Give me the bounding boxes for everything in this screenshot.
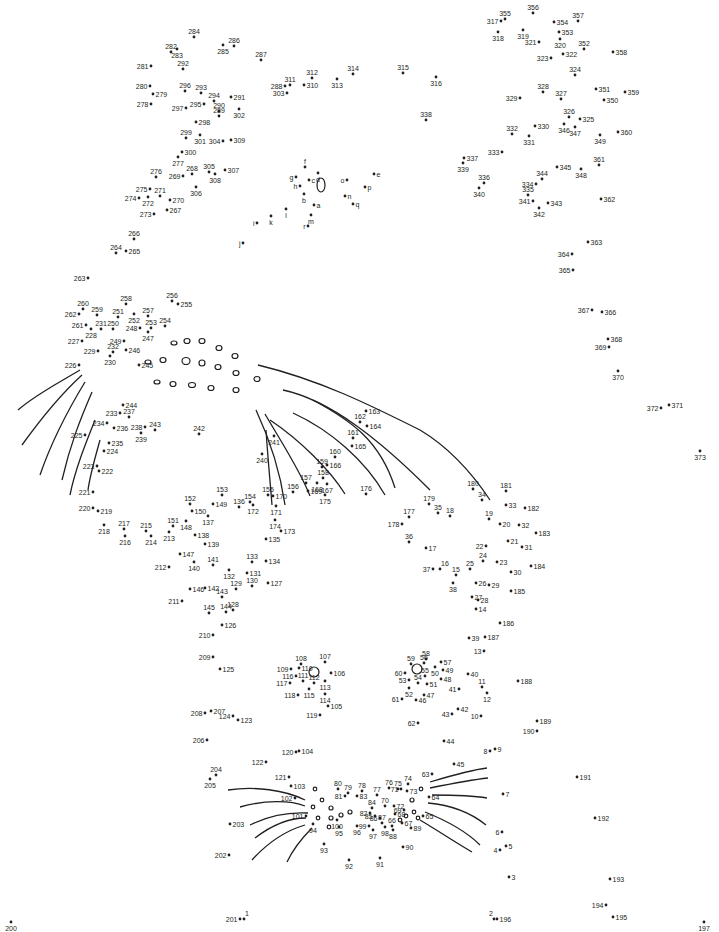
dot-marker [359, 421, 362, 424]
dot-label: 359 [628, 89, 640, 96]
dot-249: 249 [110, 338, 126, 345]
dot-marker [517, 680, 520, 683]
dot-marker [295, 675, 298, 678]
dot-marker [365, 493, 368, 496]
dot-label: 38 [449, 586, 457, 593]
dot-marker [251, 585, 254, 588]
dot-marker [308, 688, 311, 691]
dot-label: 251 [112, 308, 124, 315]
dot-label: 295 [190, 101, 202, 108]
dot-marker [238, 108, 241, 111]
dot-label: 326 [563, 108, 575, 115]
dot-marker [239, 918, 242, 921]
dot-marker [402, 72, 405, 75]
dot-marker [103, 524, 106, 527]
dot-label: 91 [376, 861, 384, 868]
dot-marker [443, 740, 446, 743]
dot-label: 269 [169, 173, 181, 180]
dot-marker [78, 364, 81, 367]
dot-293: 293 [195, 84, 207, 94]
dot-label: 308 [209, 177, 221, 184]
dot-marker [242, 242, 245, 245]
dot-a: a [313, 202, 321, 209]
dot-326: 326 [563, 108, 575, 118]
dot-label: 41 [449, 686, 457, 693]
dot-marker [393, 805, 396, 808]
dot-label: 84 [368, 799, 376, 806]
dot-marker [417, 722, 420, 725]
dot-marker [452, 582, 455, 585]
dot-label: 292 [177, 60, 189, 67]
dot-label: g [290, 174, 294, 182]
dot-marker [177, 156, 180, 159]
dot-162: 162 [354, 413, 366, 423]
dot-marker [384, 805, 387, 808]
dot-258: 258 [120, 295, 132, 305]
dot-marker [228, 854, 231, 857]
dot-label: 118 [284, 692, 295, 699]
dot-label: 148 [180, 524, 192, 531]
dot-92: 92 [345, 859, 353, 870]
dot-marker [302, 680, 305, 683]
dot-marker [198, 433, 201, 436]
dot-309: 309 [230, 137, 246, 144]
dot-310: 310 [303, 82, 319, 89]
dot-361: 361 [593, 156, 605, 166]
dot-marker [159, 195, 162, 198]
dot-marker [500, 20, 503, 23]
dot-marker [428, 796, 431, 799]
dot-label: 303 [273, 90, 285, 97]
dot-label: 281 [137, 63, 149, 70]
dot-label: 329 [506, 95, 518, 102]
dot-label: 193 [613, 876, 625, 883]
dot-marker [510, 590, 513, 593]
dot-label: 277 [172, 160, 184, 167]
dot-label: 94 [309, 827, 317, 834]
dot-marker [595, 88, 598, 91]
dot-132: 132 [223, 569, 235, 580]
dot-label: 369 [595, 344, 607, 351]
dot-label: 200 [5, 925, 17, 932]
dot-13: 13 [474, 648, 486, 655]
dot-182: 182 [524, 505, 540, 512]
dot-368: 368 [607, 336, 623, 343]
dot-marker [475, 582, 478, 585]
dot-264: 264 [110, 244, 122, 254]
dot-marker [260, 59, 263, 62]
dot-66: 66 [388, 817, 396, 827]
dot-marker [298, 750, 301, 753]
dot-label: 196 [500, 916, 512, 923]
dot-59: 59 [407, 655, 415, 665]
dot-marker [499, 849, 502, 852]
dot-marker [660, 407, 663, 410]
dot-label: 263 [74, 275, 86, 282]
dot-label: 95 [335, 830, 343, 837]
dot-marker [290, 668, 293, 671]
dot-marker [558, 31, 561, 34]
dot-marker [213, 100, 216, 103]
dot-111: 111 [298, 672, 309, 682]
dot-marker [275, 505, 278, 508]
dot-label: 66 [388, 817, 396, 824]
dot-label: m [308, 218, 314, 225]
dot-marker [368, 825, 371, 828]
dot-label: 213 [163, 535, 175, 542]
dot-label: 97 [369, 833, 377, 840]
dot-marker [305, 482, 308, 485]
dot-label: 272 [142, 200, 154, 207]
dot-label: 167 [321, 487, 333, 494]
dot-label: 145 [203, 604, 215, 611]
dot-marker [265, 761, 268, 764]
dot-336: 336 [478, 174, 490, 184]
dot-marker [169, 199, 172, 202]
dot-192: 192 [594, 815, 610, 822]
dot-marker [87, 277, 90, 280]
dot-marker [617, 131, 620, 134]
dot-marker [486, 692, 489, 695]
dot-marker [221, 494, 224, 497]
dot-marker [535, 532, 538, 535]
dot-label: 216 [119, 539, 131, 546]
dot-80: 80 [334, 780, 342, 790]
dot-233: 233 [106, 410, 122, 417]
dot-20: 20 [499, 521, 511, 528]
